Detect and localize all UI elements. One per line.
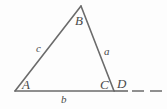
triangle-diagram-svg bbox=[0, 0, 167, 109]
side-label-a: a bbox=[104, 46, 110, 57]
vertex-label-d: D bbox=[117, 77, 126, 90]
vertex-label-a: A bbox=[22, 78, 30, 91]
side-label-c: c bbox=[36, 43, 41, 54]
vertex-label-c: C bbox=[100, 78, 109, 91]
geometry-figure: A B C D a b c bbox=[0, 0, 167, 109]
vertex-label-b: B bbox=[75, 14, 83, 27]
side-label-b: b bbox=[61, 94, 67, 105]
